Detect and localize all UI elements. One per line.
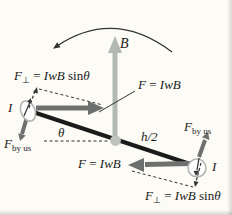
force-arrow-left-head-icon bbox=[88, 101, 104, 115]
page-edge-right bbox=[227, 0, 232, 215]
decomposition-dashed-line-left bbox=[39, 89, 103, 105]
angle-theta-label: θ bbox=[58, 125, 65, 140]
force-perp-left-head-icon bbox=[33, 87, 38, 93]
force-bottom-label: F = IwB bbox=[77, 156, 121, 171]
current-loop-left-icon bbox=[18, 99, 39, 124]
page-edge-bottom bbox=[0, 210, 232, 215]
force-perp-right-label: F⊥ = IwB sinθ bbox=[144, 188, 221, 205]
physics-figure: B θ bbox=[0, 0, 232, 215]
force-arrow-right-shaft bbox=[145, 164, 190, 165]
current-right-label: I bbox=[211, 159, 217, 174]
force-arrow-right-head-icon bbox=[128, 158, 144, 172]
force-by-us-right-shaft bbox=[199, 140, 205, 157]
force-top-label: F = IwB bbox=[137, 77, 181, 92]
half-height-label: h/2 bbox=[141, 129, 158, 144]
force-by-us-right-label: Fby us bbox=[183, 119, 212, 136]
rotation-arc-arrowhead-icon bbox=[53, 42, 61, 48]
decomposition-dashed-line-right bbox=[132, 171, 193, 187]
current-left-label: I bbox=[7, 100, 13, 115]
force-perp-right-head-icon bbox=[194, 181, 199, 187]
force-perp-left-label: F⊥ = IwB sinθ bbox=[13, 68, 90, 85]
torque-diagram: B θ bbox=[0, 0, 232, 215]
pivot-dot bbox=[110, 135, 121, 146]
force-by-us-left-label: Fby us bbox=[3, 136, 32, 153]
force-by-us-left-head-icon bbox=[18, 133, 26, 141]
b-field-label: B bbox=[120, 36, 129, 51]
